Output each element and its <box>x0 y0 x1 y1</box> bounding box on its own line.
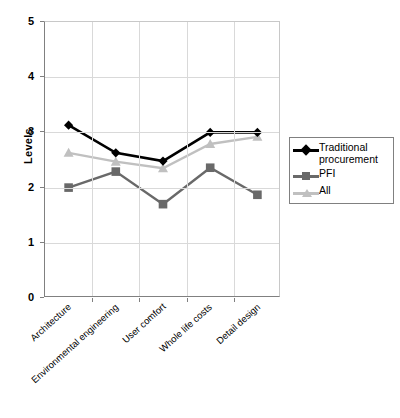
series-line-traditional-procurement <box>69 125 258 161</box>
chart-figure: Levels 012345 ArchitectureEnvironmental … <box>0 0 400 418</box>
y-tick-label: 4 <box>0 70 34 82</box>
plot-area <box>44 21 280 297</box>
x-tick-mark <box>234 298 235 302</box>
legend-label-traditional: Traditional procurement <box>319 142 388 165</box>
x-axis-label: Environmental engineering <box>29 301 120 385</box>
x-axis-label: Detail design <box>214 301 262 346</box>
y-tick-label: 0 <box>0 291 34 303</box>
data-point-marker <box>206 163 215 172</box>
x-tick-mark <box>187 298 188 302</box>
y-tick-mark <box>40 297 44 298</box>
x-tick-mark <box>92 298 93 302</box>
legend-item-all: All <box>293 185 388 199</box>
y-tick-label: 2 <box>0 181 34 193</box>
x-axis-label: User comfort <box>120 301 168 346</box>
data-point-marker <box>253 190 262 199</box>
legend-key-diamond-icon <box>293 143 319 156</box>
series-line-pfi <box>69 168 258 204</box>
legend-key-square-icon <box>293 169 319 182</box>
legend-key-triangle-icon <box>293 186 319 199</box>
data-point-marker <box>159 200 168 209</box>
series-lines <box>44 21 280 297</box>
legend-item-traditional: Traditional procurement <box>293 142 388 165</box>
y-tick-label: 5 <box>0 15 34 27</box>
gridline-vertical <box>92 22 93 296</box>
gridline-horizontal <box>45 243 279 244</box>
y-tick-label: 3 <box>0 125 34 137</box>
gridline-vertical <box>187 22 188 296</box>
gridline-vertical <box>234 22 235 296</box>
gridline-horizontal <box>45 132 279 133</box>
legend-label-pfi: PFI <box>319 168 335 180</box>
x-tick-mark <box>139 298 140 302</box>
y-axis-title: Levels <box>22 106 34 186</box>
chart-legend: Traditional procurement PFI All <box>289 137 394 204</box>
gridline-vertical <box>139 22 140 296</box>
y-tick-label: 1 <box>0 236 34 248</box>
x-axis-label: Architecture <box>28 301 73 343</box>
gridline-horizontal <box>45 188 279 189</box>
gridline-horizontal <box>45 77 279 78</box>
legend-item-pfi: PFI <box>293 168 388 182</box>
data-point-marker <box>112 167 121 176</box>
legend-label-all: All <box>319 185 331 197</box>
